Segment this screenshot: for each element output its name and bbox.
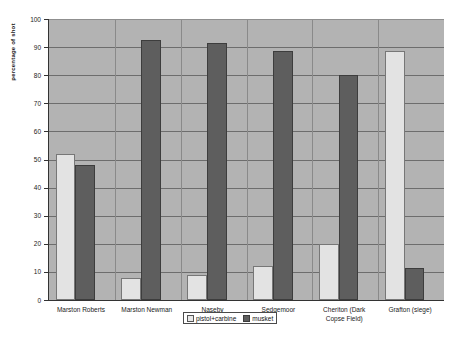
bar-pistol-carbine [253, 266, 273, 300]
bar-chart: percentage of shot 010203040506070809010… [0, 0, 459, 340]
x-axis-label-line: Grafton (siege) [377, 305, 443, 314]
x-axis-label-line: Cheriton (Dark [311, 305, 377, 314]
legend-item: pistol+carbine [187, 315, 236, 322]
y-axis-tick-label: 30 [0, 212, 41, 219]
legend-label: musket [252, 315, 273, 322]
bar-musket [75, 165, 95, 300]
gridline-vertical [312, 19, 313, 300]
y-axis-tick-label: 80 [0, 72, 41, 79]
legend-swatch-pistol [187, 315, 194, 322]
y-axis-tick-label: 100 [0, 16, 41, 23]
x-axis-label: Grafton (siege) [377, 305, 443, 314]
gridline-vertical [378, 19, 379, 300]
legend-swatch-musket [243, 315, 250, 322]
bar-pistol-carbine [385, 51, 405, 300]
gridline-vertical [247, 19, 248, 300]
gridline-vertical [115, 19, 116, 300]
bar-musket [141, 40, 161, 300]
x-axis-line [44, 300, 444, 301]
y-axis-tick-label: 90 [0, 44, 41, 51]
x-axis-label-line: Marston Newman [114, 305, 180, 314]
gridline-vertical [181, 19, 182, 300]
legend-label: pistol+carbine [196, 315, 236, 322]
x-axis-label-line: Copse Field) [311, 314, 377, 323]
x-axis-label-line: Marston Roberts [48, 305, 114, 314]
bar-pistol-carbine [319, 244, 339, 300]
plot-area [48, 19, 444, 300]
y-axis-tick-label: 10 [0, 268, 41, 275]
bar-pistol-carbine [187, 275, 207, 300]
y-axis-tick-label: 60 [0, 128, 41, 135]
y-axis-tick-label: 20 [0, 240, 41, 247]
legend-item: musket [243, 315, 273, 322]
y-axis-tick-label: 0 [0, 297, 41, 304]
chart-legend: pistol+carbinemusket [183, 312, 277, 324]
bar-musket [273, 51, 293, 300]
bar-musket [405, 268, 425, 300]
bar-pistol-carbine [56, 154, 76, 300]
y-axis-tick-label: 40 [0, 184, 41, 191]
y-axis-line [48, 19, 49, 301]
plot-top-border [48, 19, 444, 20]
x-axis-label: Marston Roberts [48, 305, 114, 314]
y-axis-tick-label: 50 [0, 156, 41, 163]
bar-musket [207, 43, 227, 300]
bar-pistol-carbine [121, 278, 141, 300]
x-axis-label: Cheriton (DarkCopse Field) [311, 305, 377, 323]
bar-musket [339, 75, 359, 300]
x-axis-label: Marston Newman [114, 305, 180, 314]
y-axis-tick-label: 70 [0, 100, 41, 107]
